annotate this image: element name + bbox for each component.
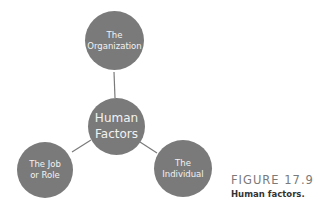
node-center-line2: Factors [95,127,138,143]
node-individual: The Individual [154,140,212,197]
diagram-canvas: The Organization Human Factors The Job o… [0,0,320,216]
node-job-role-line1: The Job [29,159,61,170]
node-individual-line2: Individual [162,169,203,180]
figure-label: FIGURE 17.9 [231,173,314,187]
node-individual-line1: The [175,158,191,169]
node-organization-line2: Organization [87,41,141,52]
connector-job-role [72,140,91,152]
node-center-line1: Human [95,111,138,127]
connector-individual [140,142,157,153]
node-organization-line1: The [107,30,123,41]
connector-organization [114,72,115,98]
node-job-role-line2: or Role [30,170,60,181]
node-job-role: The Job or Role [17,142,73,198]
node-human-factors: Human Factors [88,98,145,155]
figure-title: Human factors. [231,188,314,200]
figure-caption: FIGURE 17.9 Human factors. [231,173,314,200]
node-organization: The Organization [85,11,144,70]
